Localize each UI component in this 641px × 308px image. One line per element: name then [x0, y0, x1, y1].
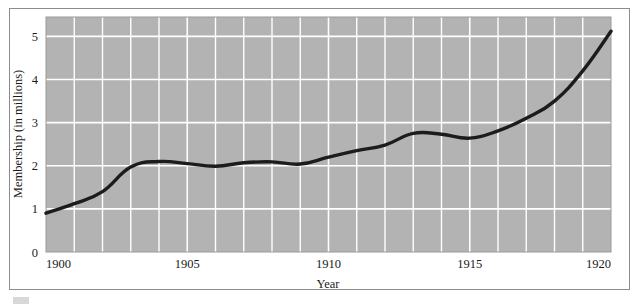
y-tick-label: 2: [32, 159, 38, 173]
y-tick-label: 5: [32, 30, 38, 44]
x-tick-label: 1900: [46, 257, 71, 271]
x-tick-label: 1905: [175, 257, 200, 271]
x-tick-label: 1920: [586, 257, 611, 271]
y-tick-label: 1: [32, 202, 38, 216]
scan-artifact: [13, 297, 29, 304]
line-chart: 19001905191019151920 012345 Year Members…: [0, 0, 641, 308]
y-tick-label: 3: [32, 116, 38, 130]
x-tick-label: 1910: [316, 257, 341, 271]
x-axis-title: Year: [316, 277, 340, 291]
chart-figure: 19001905191019151920 012345 Year Members…: [0, 0, 641, 308]
y-axis-title: Membership (in millions): [11, 70, 25, 198]
y-tick-label: 4: [32, 73, 39, 87]
x-axis-tick-labels: 19001905191019151920: [46, 257, 611, 271]
y-axis-tick-labels: 012345: [32, 30, 39, 260]
x-tick-label: 1915: [457, 257, 482, 271]
y-tick-label: 0: [32, 246, 38, 260]
